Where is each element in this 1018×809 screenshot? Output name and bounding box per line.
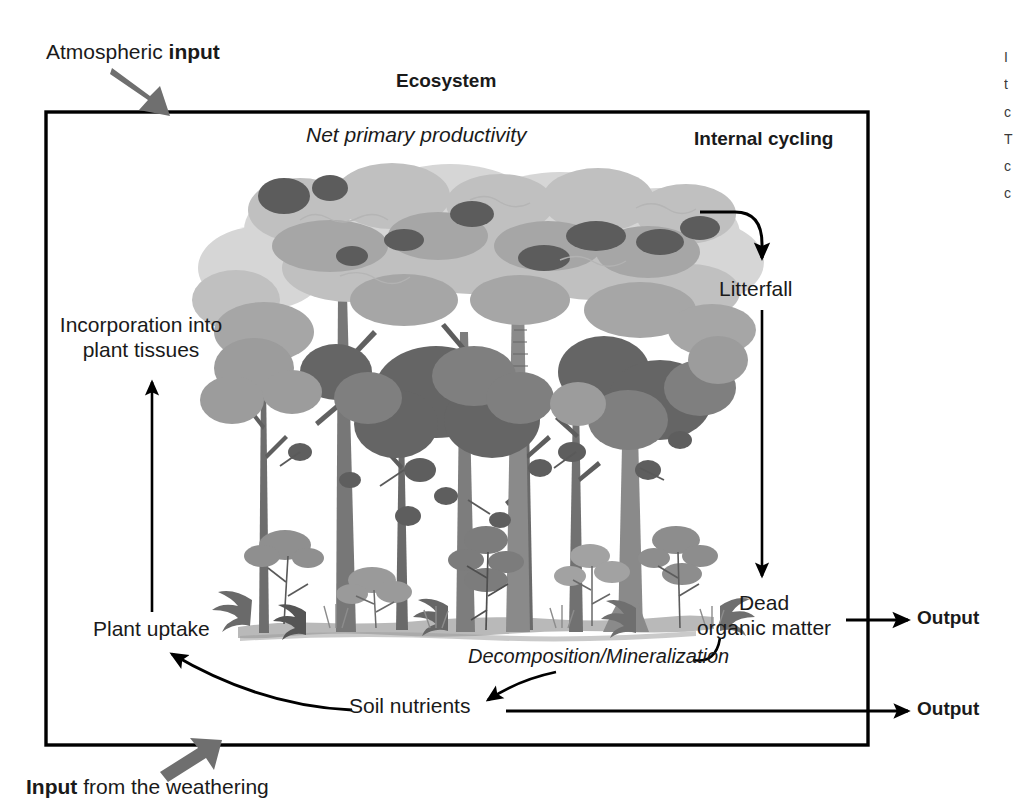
atmospheric-input-text: Atmospheric xyxy=(46,40,169,63)
weathering-input-emphasis: Input xyxy=(26,775,77,798)
output-upper-label: Output xyxy=(917,607,979,629)
dead-organic-matter-label: Deadorganic matter xyxy=(692,591,836,641)
ecosystem-nutrient-cycling-figure: Atmospheric input Ecosystem Net primary … xyxy=(0,0,1018,809)
atmospheric-input-label: Atmospheric input xyxy=(46,40,220,65)
dead-organic-line-2: organic matter xyxy=(697,616,831,639)
plant-uptake-label: Plant uptake xyxy=(93,617,210,642)
forest-illustration xyxy=(192,163,764,641)
canopy-upper xyxy=(192,163,764,362)
weathering-input-text: from the weathering xyxy=(77,775,268,798)
clipped-side-caption: I t c T c c xyxy=(1004,44,1018,208)
dead-organic-line-1: Dead xyxy=(739,591,789,614)
decomposition-mineralization-label: Decomposition/Mineralization xyxy=(468,645,729,669)
net-primary-productivity-label: Net primary productivity xyxy=(306,123,527,148)
incorporation-line-1: Incorporation into xyxy=(60,313,222,336)
canopy-mid xyxy=(200,336,748,528)
soil-to-plant-uptake-arrow xyxy=(172,654,352,710)
litterfall-label: Litterfall xyxy=(719,277,793,302)
incorporation-line-2: plant tissues xyxy=(83,338,200,361)
ecosystem-title: Ecosystem xyxy=(396,70,496,92)
atmospheric-input-arrow xyxy=(110,68,170,116)
weathering-input-label: Input from the weathering xyxy=(26,775,269,800)
atmospheric-input-emphasis: input xyxy=(169,40,220,63)
figure-canvas xyxy=(0,0,1018,809)
decomposition-arrow xyxy=(488,672,556,700)
internal-cycling-label: Internal cycling xyxy=(694,128,833,150)
output-lower-label: Output xyxy=(917,698,979,720)
incorporation-into-plant-tissues-label: Incorporation intoplant tissues xyxy=(48,313,234,363)
soil-nutrients-label: Soil nutrients xyxy=(349,694,470,719)
